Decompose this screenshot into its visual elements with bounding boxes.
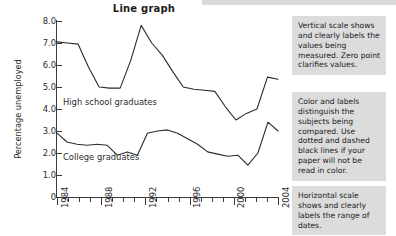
x-tick-label: 1988: [105, 187, 113, 208]
x-tick-major: [278, 198, 279, 205]
note-vertical-scale: Vertical scale shows and clearly labels …: [292, 16, 386, 75]
y-tick: [57, 21, 62, 22]
x-tick-label: 1996: [193, 187, 201, 208]
x-tick-minor: [134, 198, 135, 202]
x-tick-label: 2004: [282, 187, 290, 208]
chart-area: Line graph Percentage unemployed 8.07.06…: [0, 0, 288, 236]
x-tick-minor: [267, 198, 268, 202]
x-tick-minor: [79, 198, 80, 202]
x-tick-minor: [123, 198, 124, 202]
x-tick-major: [145, 198, 146, 205]
x-tick-minor: [256, 198, 257, 202]
x-tick-minor: [212, 198, 213, 202]
x-tick-major: [190, 198, 191, 205]
graph-figure: Line graph Percentage unemployed 8.07.06…: [0, 0, 396, 236]
x-tick-minor: [168, 198, 169, 202]
note-horizontal-scale: Horizontal scale shows and clearly label…: [292, 186, 386, 235]
y-tick: [57, 131, 62, 132]
series-label-college: College graduates: [63, 152, 139, 162]
y-tick: [57, 153, 62, 154]
x-tick-major: [234, 198, 235, 205]
x-tick-label: 1984: [61, 187, 69, 208]
x-tick-minor: [223, 198, 224, 202]
y-tick: [57, 65, 62, 66]
series-label-high-school: High school graduates: [63, 97, 157, 107]
y-tick: [57, 87, 62, 88]
y-tick: [57, 175, 62, 176]
note-color-labels: Color and labels distinguish the subject…: [292, 92, 386, 181]
x-tick-label: 2000: [237, 187, 245, 208]
x-tick-major: [57, 198, 58, 205]
y-tick: [57, 43, 62, 44]
x-tick-major: [101, 198, 102, 205]
x-tick-minor: [90, 198, 91, 202]
x-tick-minor: [179, 198, 180, 202]
y-tick: [57, 109, 62, 110]
x-tick-label: 1992: [149, 187, 157, 208]
